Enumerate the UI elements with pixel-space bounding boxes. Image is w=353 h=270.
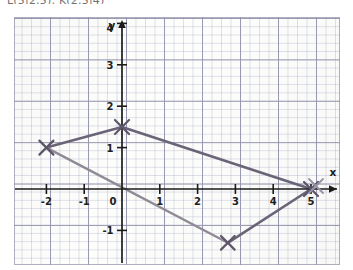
x-tick-label-5: 5	[308, 196, 315, 207]
vertex-markers	[39, 120, 323, 250]
x-tick-label-2: 2	[194, 196, 201, 207]
graph-screenshot: L(5|2,5), K(2,5|4)	[0, 0, 353, 270]
edge-b-c	[122, 127, 311, 189]
quadrilateral-shape	[46, 127, 311, 243]
coordinate-plot: x y -2 -1 1 2 3 4 5 0 1 2 3 4 -1	[0, 0, 353, 270]
origin-label: 0	[110, 196, 117, 207]
x-axis-arrow	[329, 185, 337, 193]
x-tick-label--2: -2	[41, 196, 52, 207]
y-tick-label-2: 2	[107, 101, 114, 112]
y-tick-label--1: -1	[102, 225, 113, 236]
x-tick-label-3: 3	[232, 196, 239, 207]
y-tick-label-3: 3	[107, 60, 114, 71]
axis-group	[15, 20, 337, 263]
y-tick-label-1: 1	[107, 143, 114, 154]
x-axis-label: x	[330, 166, 337, 178]
vertex-marker-d	[221, 236, 235, 250]
x-tick-label-4: 4	[270, 196, 277, 207]
y-tick-label-4: 4	[107, 23, 114, 34]
x-tick-label-1: 1	[156, 196, 163, 207]
x-tick-label--1: -1	[79, 196, 90, 207]
